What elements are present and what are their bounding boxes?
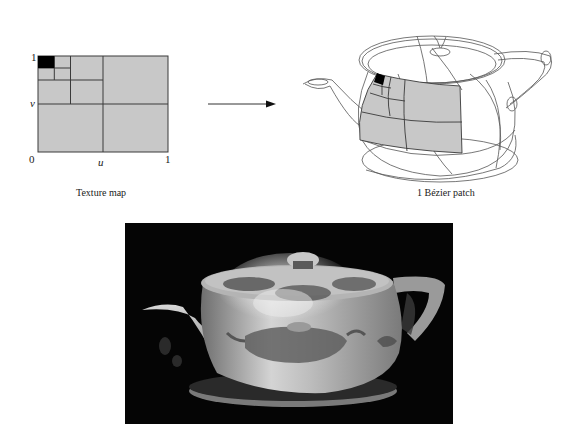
shaded-bezier-patch [359,73,462,153]
bezier-patch-figure: 1 Bézier patch [0,0,582,210]
bezier-patch-caption: 1 Bézier patch [417,187,475,199]
rendered-teapot-image [125,223,453,424]
teapot-wireframe [0,0,582,210]
rendered-teapot-drawing [125,223,453,424]
